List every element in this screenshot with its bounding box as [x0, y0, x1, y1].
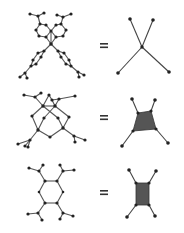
row-2	[16, 91, 169, 148]
row-3	[26, 163, 157, 221]
row-2-simplified-node	[120, 97, 170, 148]
row-2-quadrilateral	[133, 111, 156, 131]
row-3-simplified-node	[125, 168, 158, 219]
row-1-simplified-node	[116, 17, 171, 75]
row-3-equals-sign	[100, 190, 108, 195]
row-1-equals-sign	[100, 43, 108, 48]
row-2-equals-sign	[100, 115, 108, 120]
diagram-canvas	[0, 0, 184, 233]
row-1-molecule	[18, 11, 85, 79]
row-3-rectangle	[136, 183, 149, 205]
row-3-molecule	[26, 163, 75, 221]
row-2-molecule	[16, 91, 86, 148]
row-1	[18, 11, 170, 79]
